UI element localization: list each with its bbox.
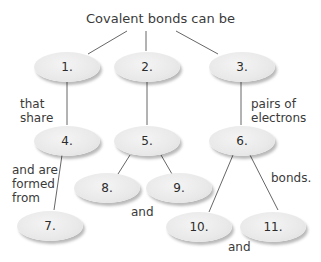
concept-node-4[interactable]: 4. bbox=[34, 126, 100, 156]
concept-node-8[interactable]: 8. bbox=[74, 173, 140, 203]
link-label-and-8-9: and bbox=[131, 205, 154, 219]
connector-6-10 bbox=[209, 155, 233, 212]
link-label-and-are-formed-from: and are formed from bbox=[12, 163, 66, 205]
node-label: 5. bbox=[141, 134, 152, 148]
connector-5-8 bbox=[118, 155, 130, 174]
concept-node-10[interactable]: 10. bbox=[166, 212, 232, 242]
connector-5-9 bbox=[161, 155, 172, 174]
concept-node-7[interactable]: 7. bbox=[17, 211, 83, 241]
connector-title-3 bbox=[176, 31, 218, 54]
node-label: 11. bbox=[263, 220, 282, 234]
connector-title-1 bbox=[88, 31, 127, 54]
concept-node-11[interactable]: 11. bbox=[240, 212, 306, 242]
root-concept-title: Covalent bonds can be bbox=[0, 11, 321, 26]
node-label: 10. bbox=[189, 220, 208, 234]
node-label: 9. bbox=[173, 181, 184, 195]
concept-node-2[interactable]: 2. bbox=[114, 52, 180, 82]
concept-node-3[interactable]: 3. bbox=[209, 52, 275, 82]
link-label-that-share: that share bbox=[20, 97, 64, 125]
concept-node-5[interactable]: 5. bbox=[114, 126, 180, 156]
node-label: 7. bbox=[44, 219, 55, 233]
concept-node-1[interactable]: 1. bbox=[34, 52, 100, 82]
link-label-and-10-11: and bbox=[228, 240, 251, 254]
link-label-pairs-of-electrons: pairs of electrons bbox=[251, 97, 311, 125]
link-label-bonds: bonds. bbox=[271, 171, 311, 185]
node-label: 1. bbox=[61, 60, 72, 74]
node-label: 8. bbox=[101, 181, 112, 195]
node-label: 4. bbox=[61, 134, 72, 148]
node-label: 3. bbox=[236, 60, 247, 74]
node-label: 2. bbox=[141, 60, 152, 74]
concept-node-9[interactable]: 9. bbox=[146, 173, 212, 203]
node-label: 6. bbox=[236, 134, 247, 148]
concept-node-6[interactable]: 6. bbox=[209, 126, 275, 156]
